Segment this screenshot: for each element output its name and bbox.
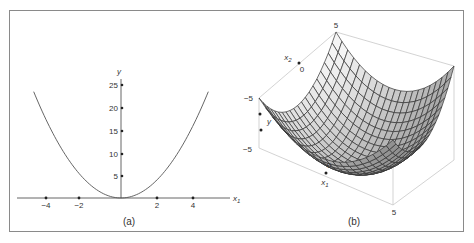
y-tick-label: 5 (114, 172, 119, 181)
tick-label-top: 5 (334, 21, 339, 30)
figure-canvas: −4 −2 2 4 5 10 15 20 25 y x1 (a) (0, 0, 474, 243)
panel-b-caption: (b) (348, 216, 360, 227)
y-axis-label-3d: y (266, 117, 272, 126)
panel-a-caption: (a) (123, 216, 135, 227)
y-tick-label: 25 (109, 81, 118, 90)
y-tick-dot (260, 129, 263, 132)
y-tick-dot (259, 113, 262, 116)
y-axis-label: y (116, 67, 122, 76)
x-tick-label: 4 (191, 201, 196, 210)
x-tick-label: 2 (155, 201, 160, 210)
tick-label-left-upper: −5 (244, 94, 254, 103)
y-tick-label: 10 (109, 150, 118, 159)
panel-a: −4 −2 2 4 5 10 15 20 25 y x1 (a) (17, 67, 240, 227)
x1-zero-label: 0 (327, 161, 332, 170)
x1-tick-dot (325, 172, 328, 175)
x2-zero-label: 0 (300, 65, 305, 74)
tick-label-left-lower: −5 (243, 145, 253, 154)
x-ticks: −4 −2 2 4 (41, 197, 195, 210)
y-tick-label: 20 (109, 104, 118, 113)
x-tick-label: −2 (74, 201, 84, 210)
y-tick-label: 15 (109, 127, 118, 136)
x-axis-label: x1 (232, 194, 240, 204)
panel-b: 5 x2 0 −5 y −5 0 x1 5 (b) (243, 21, 454, 227)
x1-axis-label: x1 (320, 178, 328, 188)
x-tick-label: −4 (41, 201, 51, 210)
tick-label-bottom: 5 (392, 208, 397, 217)
x2-axis-label: x2 (283, 53, 292, 63)
